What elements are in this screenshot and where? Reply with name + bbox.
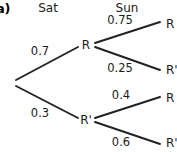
leaf-label-sun-r-1: R (166, 18, 174, 30)
node-label-sat-r-prime: R' (80, 114, 92, 126)
column-header-sun: Sun (116, 2, 139, 14)
node-label-sat-r: R (82, 39, 90, 51)
probability-label-sat-r-prime: 0.3 (31, 108, 49, 120)
probability-label-sun-r-given-r: 0.75 (107, 15, 133, 27)
column-header-sat: Sat (38, 2, 58, 14)
leaf-label-sun-r-2: R (166, 92, 174, 104)
probability-tree-figure: a) Sat Sun R R' R R' R R' 0.7 0.3 0.75 0… (0, 0, 177, 152)
leaf-label-sun-r-prime-2: R' (166, 137, 177, 149)
leaf-label-sun-r-prime-1: R' (166, 64, 177, 76)
probability-label-sun-r-prime-given-r: 0.25 (107, 63, 133, 75)
probability-label-sun-r-given-r-prime: 0.4 (112, 90, 130, 102)
part-label: a) (0, 2, 10, 15)
probability-label-sun-r-prime-given-r-prime: 0.6 (112, 137, 130, 149)
probability-label-sat-r: 0.7 (31, 46, 49, 58)
tree-branches-svg (0, 0, 177, 152)
